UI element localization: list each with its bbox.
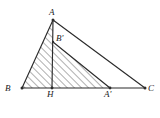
vertex-label-A: A xyxy=(49,8,55,17)
vertex-label-A-prime: A' xyxy=(104,90,111,99)
vertex-label-B: B xyxy=(5,84,11,93)
vertex-label-B-prime: B' xyxy=(56,34,63,43)
geometry-figure: A B C H A' B' xyxy=(0,0,160,118)
vertex-label-H: H xyxy=(47,90,54,99)
vertex-label-C: C xyxy=(148,84,154,93)
vertex-dot-B-prime xyxy=(52,41,54,43)
vertex-dot-C xyxy=(144,87,147,90)
vertex-dot-A xyxy=(52,19,55,22)
vertex-dot-B xyxy=(21,87,24,90)
geometry-diagram-canvas xyxy=(0,0,160,118)
